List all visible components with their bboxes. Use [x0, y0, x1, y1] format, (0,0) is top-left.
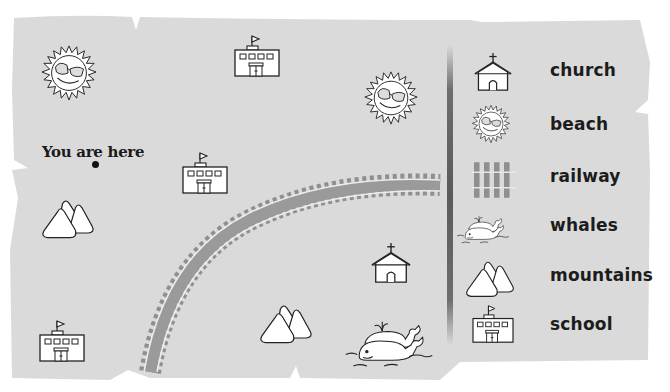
legend-label: railway [550, 166, 621, 186]
legend-divider [447, 45, 453, 345]
mountains-icon [464, 259, 516, 299]
legend-label: whales [550, 215, 618, 235]
railway-icon [468, 160, 520, 200]
beach-icon [361, 70, 421, 126]
school-icon [38, 319, 86, 363]
beach-icon [38, 44, 100, 102]
legend-item-railway: railway [465, 158, 655, 198]
beach-icon [465, 104, 517, 144]
legend-label: mountains [550, 265, 653, 285]
legend-item-school: school [465, 306, 655, 346]
whales-icon [457, 209, 509, 249]
you-are-here-label: You are here [42, 143, 144, 161]
church-icon [370, 242, 412, 284]
school-icon [181, 151, 229, 195]
school-icon [233, 34, 281, 78]
church-icon [467, 52, 519, 92]
legend-label: school [550, 314, 613, 334]
school-icon [467, 304, 519, 344]
whales-icon [345, 318, 433, 368]
legend-label: beach [550, 114, 608, 134]
legend-item-mountains: mountains [465, 257, 655, 297]
legend-label: church [550, 60, 616, 80]
you-are-here-marker [92, 161, 99, 168]
mountains-icon [40, 198, 96, 240]
legend-item-church: church [465, 52, 655, 92]
legend-item-beach: beach [465, 106, 655, 146]
legend-item-whales: whales [465, 207, 655, 247]
mountains-icon [258, 303, 314, 345]
